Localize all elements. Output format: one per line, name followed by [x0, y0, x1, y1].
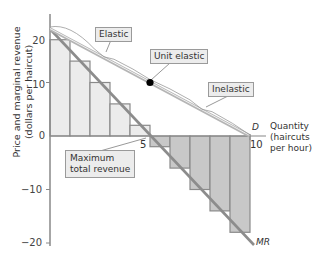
- mr-bar: [170, 136, 190, 168]
- mr-bar: [50, 40, 70, 136]
- unit-elastic-point: [146, 79, 153, 86]
- x-axis-label-line2: (haircuts: [270, 132, 312, 143]
- y-tick-0: 0: [15, 130, 45, 142]
- chart-root: Price and marginal revenue (dollars per …: [0, 0, 315, 253]
- plot-area: [0, 0, 315, 253]
- unit-elastic-label: Unit elastic: [150, 49, 208, 64]
- x-axis-label: Quantity (haircuts per hour): [270, 121, 312, 154]
- y-tick-minus20: −20: [12, 237, 42, 249]
- max-total-revenue-line1: Maximum: [70, 153, 130, 164]
- y-tick-10: 10: [15, 79, 45, 91]
- x-tick-10: 10: [250, 139, 263, 150]
- max-total-revenue-line2: total revenue: [70, 164, 130, 175]
- y-axis-label-line2: (dollars per haircut): [23, 7, 35, 177]
- inelastic-leader: [206, 96, 228, 107]
- mr-bar: [230, 136, 250, 232]
- elastic-label: Elastic: [95, 27, 132, 42]
- mr-curve-label: MR: [256, 237, 270, 248]
- max-total-revenue-label: Maximum total revenue: [65, 150, 135, 178]
- y-axis-label-line1: Price and marginal revenue: [11, 7, 23, 177]
- mr-bar: [70, 61, 90, 136]
- mr-bar: [210, 136, 230, 211]
- unit-elastic-leader: [151, 63, 170, 80]
- y-tick-20: 20: [15, 35, 45, 47]
- inelastic-label: Inelastic: [208, 82, 254, 97]
- y-axis-label: Price and marginal revenue (dollars per …: [11, 7, 35, 177]
- x-tick-5: 5: [140, 139, 146, 150]
- x-axis-label-line1: Quantity: [270, 121, 312, 132]
- x-axis-label-line3: per hour): [270, 143, 312, 154]
- y-tick-minus10: −10: [12, 184, 42, 196]
- demand-curve-label: D: [252, 122, 259, 133]
